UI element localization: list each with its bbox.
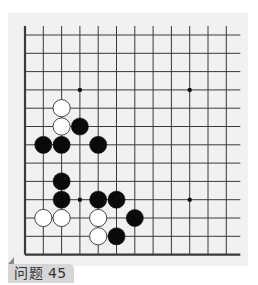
star-point <box>188 198 192 202</box>
star-point <box>78 88 82 92</box>
white-stone[interactable] <box>90 228 107 245</box>
black-stone[interactable] <box>126 209 143 226</box>
black-stone[interactable] <box>90 136 107 153</box>
white-stone[interactable] <box>53 100 70 117</box>
black-stone[interactable] <box>35 136 52 153</box>
go-board[interactable] <box>0 0 258 285</box>
white-stone[interactable] <box>53 118 70 135</box>
black-stone[interactable] <box>90 191 107 208</box>
tab-fold-decoration <box>8 257 14 264</box>
black-stone[interactable] <box>53 173 70 190</box>
problem-label: 问题 45 <box>8 264 74 283</box>
black-stone[interactable] <box>53 191 70 208</box>
stones-layer <box>35 100 144 245</box>
black-stone[interactable] <box>108 191 125 208</box>
black-stone[interactable] <box>53 136 70 153</box>
star-point <box>188 88 192 92</box>
black-stone[interactable] <box>71 118 88 135</box>
white-stone[interactable] <box>90 209 107 226</box>
white-stone[interactable] <box>35 209 52 226</box>
black-stone[interactable] <box>108 228 125 245</box>
star-point <box>78 198 82 202</box>
white-stone[interactable] <box>53 209 70 226</box>
